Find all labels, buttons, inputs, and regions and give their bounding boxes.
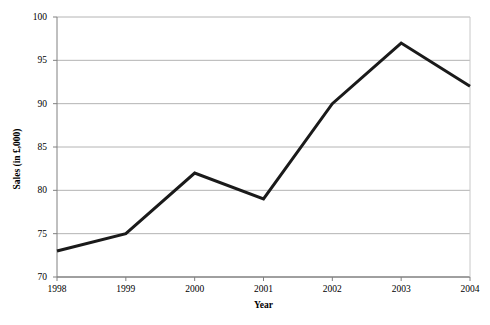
y-tick-label: 80 bbox=[21, 185, 47, 195]
y-tick-label: 95 bbox=[21, 55, 47, 65]
x-tick-label: 2004 bbox=[445, 284, 490, 294]
x-tick-label: 1998 bbox=[32, 284, 82, 294]
x-tick-label: 2003 bbox=[376, 284, 426, 294]
x-axis-ticks bbox=[57, 277, 470, 281]
y-tick-label: 70 bbox=[21, 272, 47, 282]
y-tick-label: 100 bbox=[21, 12, 47, 22]
y-tick-label: 75 bbox=[21, 229, 47, 239]
x-tick-label: 2001 bbox=[239, 284, 289, 294]
y-tick-label: 90 bbox=[21, 99, 47, 109]
gridlines bbox=[57, 17, 470, 277]
x-tick-label: 2000 bbox=[170, 284, 220, 294]
plot-area bbox=[0, 0, 490, 325]
sales-line-chart: Sales (in £,000) 707580859095100 1998199… bbox=[0, 0, 490, 325]
x-axis-title: Year bbox=[57, 300, 470, 310]
x-tick-label: 2002 bbox=[307, 284, 357, 294]
x-tick-label: 1999 bbox=[101, 284, 151, 294]
y-tick-label: 85 bbox=[21, 142, 47, 152]
y-axis-ticks bbox=[53, 17, 57, 277]
